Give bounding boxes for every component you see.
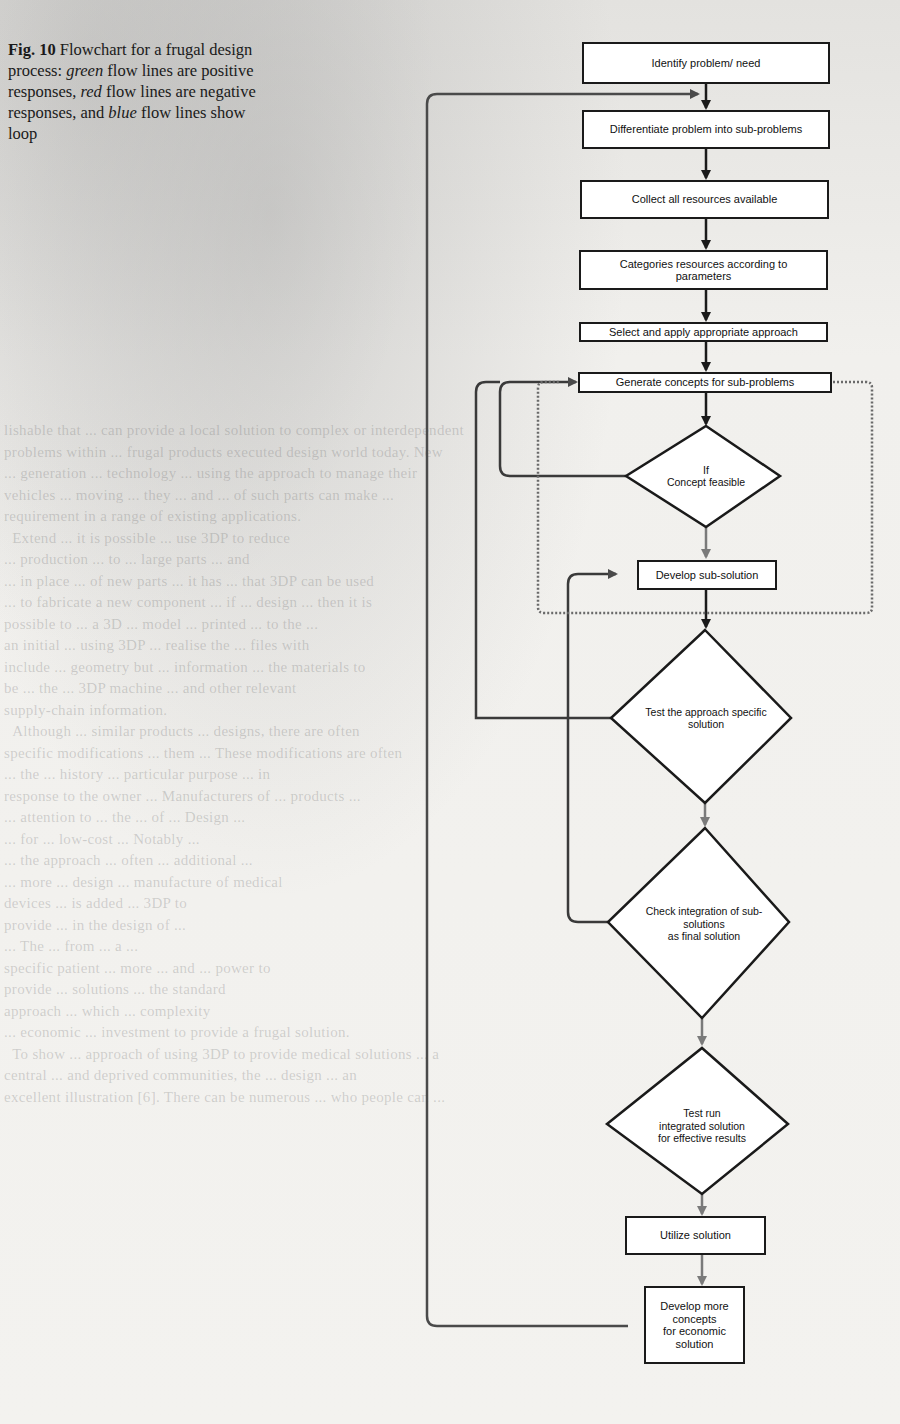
node-generate-concepts: Generate concepts for sub-problems [578, 372, 832, 393]
negative-flow-lines [476, 382, 626, 922]
decision-shapes [607, 426, 791, 1194]
node-develop-more-concepts: Develop more concepts for economic solut… [644, 1286, 745, 1364]
node-categorise-resources: Categories resources according to parame… [579, 250, 828, 290]
node-select-approach: Select and apply appropriate approach [579, 322, 828, 342]
decision-label-check-integration: Check integration of sub- solutions as f… [622, 900, 786, 948]
decision-label-test-run: Test run integrated solution for effecti… [622, 1102, 782, 1150]
decision-label-test-approach: Test the approach specific solution [626, 700, 786, 736]
node-develop-sub-solution: Develop sub-solution [637, 560, 777, 590]
decision-label-concept-feasible: If Concept feasible [646, 458, 766, 494]
node-utilize-solution: Utilize solution [625, 1216, 766, 1255]
node-collect-resources: Collect all resources available [580, 180, 829, 219]
node-identify-problem: Identify problem/ need [582, 42, 830, 84]
node-differentiate-problem: Differentiate problem into sub-problems [582, 110, 830, 149]
